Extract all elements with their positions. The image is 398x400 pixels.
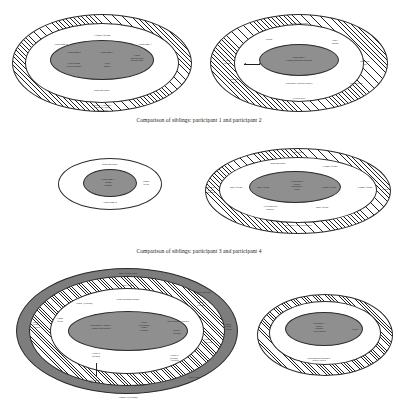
figure-1-participant-2-network: 3 female friends Participant 4 Participa… bbox=[12, 14, 192, 112]
figure-1-core-grey-ellipse bbox=[50, 40, 154, 80]
figure-5-extended-family-network: Male friend/s plus Male friend Male frie… bbox=[16, 268, 238, 394]
figure-3-core-grey-ellipse bbox=[83, 169, 137, 197]
figure-2-core-grey-ellipse bbox=[259, 44, 339, 76]
figure-6-core-grey-ellipse bbox=[285, 312, 363, 346]
figure-4-core-grey-ellipse bbox=[249, 171, 341, 203]
figure-2-link-arrow bbox=[244, 64, 260, 65]
figure-5-leader-line-left bbox=[96, 363, 97, 377]
figure-3-participant-4-network: Maternal uncle Participant 3 Parent Cous… bbox=[58, 158, 162, 210]
caption-first-comparison: Comparison of siblings: participant 1 an… bbox=[136, 117, 261, 123]
caption-second-comparison: Comparison of siblings: participant 3 an… bbox=[136, 248, 261, 254]
figure-2-participant-1-network: Second cousin/aunt 2 - male friends Mate… bbox=[210, 14, 388, 112]
figure-5-core-grey-ellipse bbox=[68, 311, 188, 351]
figure-5-outer-bottom-label: Couple 9 (friends) bbox=[100, 396, 156, 399]
figure-6-participant-1-family-network: Participant 1 Partner Children + their p… bbox=[257, 294, 393, 376]
figure-4-participant-3-network: Male friend Maternal uncle Female friend… bbox=[205, 148, 391, 234]
